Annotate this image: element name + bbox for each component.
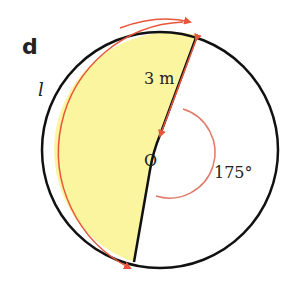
angle-label: 175° bbox=[214, 163, 253, 182]
circle-segment-diagram: d l 3 m O 175° bbox=[0, 0, 299, 287]
radius-label: 3 m bbox=[144, 69, 174, 88]
center-label: O bbox=[144, 151, 157, 170]
part-label: d bbox=[22, 34, 38, 59]
arc-length-label: l bbox=[38, 79, 44, 100]
